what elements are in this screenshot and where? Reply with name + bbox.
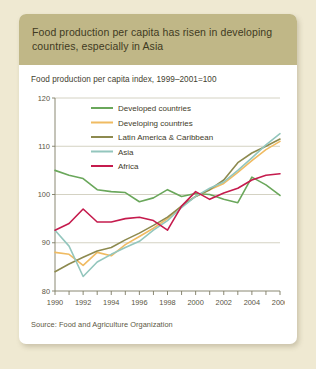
series-line-2 xyxy=(55,139,280,272)
legend-label-2: Latin America & Caribbean xyxy=(118,133,213,142)
chart-source: Source: Food and Agriculture Organizatio… xyxy=(19,318,297,329)
series-line-1 xyxy=(55,142,280,266)
chart-area: 8090100110120199019921994199619982000200… xyxy=(31,86,285,318)
x-axis-tick-label: 1998 xyxy=(159,298,175,307)
x-axis-tick-label: 2006 xyxy=(272,298,285,307)
card-header: Food production per capita has risen in … xyxy=(19,14,297,65)
legend-label-4: Africa xyxy=(118,162,139,171)
page-root: Food production per capita has risen in … xyxy=(0,0,316,369)
y-axis-tick-label: 110 xyxy=(38,142,50,151)
legend-label-0: Developed countries xyxy=(118,104,191,113)
legend-label-1: Developing countries xyxy=(118,119,193,128)
legend-label-3: Asia xyxy=(118,148,134,157)
y-axis-tick-label: 120 xyxy=(38,94,50,103)
page-title: Food production per capita has risen in … xyxy=(32,25,284,53)
x-axis-tick-label: 2000 xyxy=(187,298,203,307)
x-axis-tick-label: 1992 xyxy=(75,298,91,307)
x-axis-tick-label: 1990 xyxy=(47,298,63,307)
y-axis-tick-label: 80 xyxy=(42,287,50,296)
series-line-0 xyxy=(55,171,280,203)
x-axis-tick-label: 1994 xyxy=(103,298,119,307)
y-axis-tick-label: 100 xyxy=(38,190,50,199)
chart-card: Food production per capita has risen in … xyxy=(19,14,297,344)
card-body: Food production per capita index, 1999–2… xyxy=(19,65,297,318)
x-axis-tick-label: 2002 xyxy=(216,298,232,307)
line-chart: 8090100110120199019921994199619982000200… xyxy=(31,86,285,318)
x-axis-tick-label: 1996 xyxy=(131,298,147,307)
x-axis-tick-label: 2004 xyxy=(244,298,260,307)
y-axis-tick-label: 90 xyxy=(42,239,50,248)
chart-subtitle: Food production per capita index, 1999–2… xyxy=(31,75,285,84)
